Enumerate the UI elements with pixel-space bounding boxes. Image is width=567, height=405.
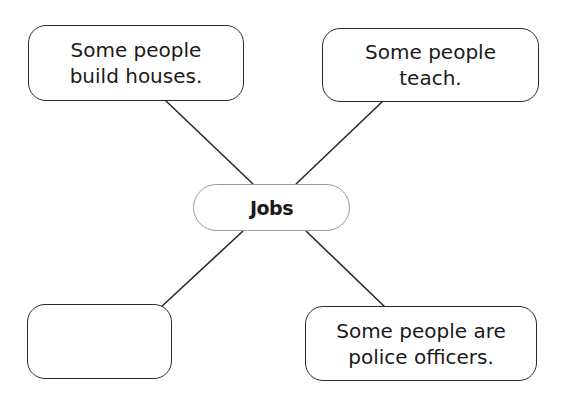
- center-node-jobs: Jobs: [193, 184, 350, 231]
- node-text: Some people teach.: [365, 39, 496, 91]
- node-top-right: Some people teach.: [322, 28, 539, 102]
- node-top-left: Some people build houses.: [28, 25, 244, 101]
- node-text: Some people build houses.: [70, 37, 203, 89]
- connector-bottom-right: [306, 231, 385, 307]
- node-text: Some people are police officers.: [336, 318, 506, 370]
- connector-top-right: [296, 101, 383, 184]
- connector-top-left: [165, 100, 253, 184]
- connector-bottom-left: [160, 231, 243, 308]
- center-label: Jobs: [250, 195, 293, 221]
- node-bottom-right: Some people are police officers.: [305, 306, 537, 381]
- node-bottom-left-empty[interactable]: [27, 304, 172, 379]
